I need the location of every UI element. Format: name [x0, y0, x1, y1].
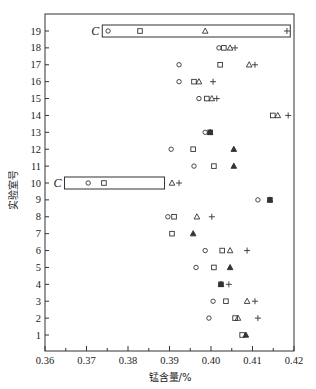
triangle-marker-icon — [202, 28, 208, 33]
y-tick-label: 7 — [36, 228, 41, 239]
circle-marker-icon — [197, 96, 201, 100]
circle-marker-icon — [203, 130, 207, 134]
triangle-marker-icon — [227, 248, 233, 253]
circle-marker-icon — [177, 79, 181, 83]
x-tick-label: 0.36 — [36, 355, 54, 366]
y-tick-label: 18 — [31, 42, 42, 53]
scatter-chart: 12345678910111213141516171819 0.360.370.… — [0, 0, 316, 389]
outlier-label: C — [91, 24, 100, 38]
x-axis: 0.360.370.380.390.400.410.42 — [36, 346, 303, 366]
square-marker-icon — [138, 29, 143, 34]
square-marker-icon — [205, 96, 210, 101]
triangle-marker-icon — [227, 45, 233, 50]
square-marker-icon — [170, 231, 175, 236]
y-tick-label: 17 — [31, 59, 42, 70]
circle-marker-icon — [207, 316, 211, 320]
circle-marker-icon — [166, 215, 170, 219]
plus-marker-icon — [244, 248, 250, 254]
y-tick-label: 1 — [36, 330, 41, 341]
y-axis-title: 实验室号 — [7, 170, 19, 210]
triangle-marker-icon — [196, 79, 202, 84]
triangle-marker-icon — [209, 96, 215, 101]
triangle-marker-icon — [169, 180, 175, 185]
x-tick-label: 0.40 — [202, 355, 220, 366]
circle-marker-icon — [169, 147, 173, 151]
square-marker-icon — [218, 62, 223, 67]
circle-marker-icon — [211, 299, 215, 303]
triangle-marker-icon — [275, 112, 281, 117]
y-tick-label: 2 — [36, 313, 41, 324]
square-marker-icon — [191, 147, 196, 152]
y-tick-label: 10 — [31, 178, 42, 189]
data-points — [86, 28, 291, 337]
triangle-marker-icon — [244, 298, 250, 303]
y-tick-label: 3 — [36, 296, 41, 307]
plus-marker-icon — [176, 180, 182, 186]
y-tick-label: 4 — [36, 279, 42, 290]
y-tick-label: 6 — [36, 245, 41, 256]
triangle-marker-icon — [190, 231, 196, 236]
y-tick-label: 9 — [36, 194, 41, 205]
triangle-marker-icon — [231, 146, 237, 151]
square-marker-icon — [172, 214, 177, 219]
circle-marker-icon — [217, 46, 221, 50]
square-marker-icon — [271, 113, 276, 118]
circle-marker-icon — [203, 248, 207, 252]
x-axis-title: 锰含量/% — [149, 371, 192, 383]
square-marker-icon — [102, 181, 107, 186]
x-tick-label: 0.39 — [160, 355, 178, 366]
y-tick-label: 11 — [31, 161, 41, 172]
square-marker-icon — [222, 46, 227, 51]
plus-marker-icon — [226, 281, 232, 287]
y-axis: 12345678910111213141516171819 — [31, 26, 50, 341]
triangle-marker-icon — [227, 264, 233, 269]
y-tick-label: 13 — [31, 127, 42, 138]
y-tick-label: 8 — [36, 211, 41, 222]
square-marker-icon — [224, 299, 229, 304]
circle-marker-icon — [194, 265, 198, 269]
x-tick-label: 0.38 — [119, 355, 137, 366]
plus-marker-icon — [255, 315, 261, 321]
plus-marker-icon — [285, 112, 291, 118]
circle-marker-icon — [192, 164, 196, 168]
circle-marker-icon — [106, 29, 110, 33]
outlier-annotations: CC — [53, 24, 290, 190]
plus-marker-icon — [252, 62, 258, 68]
x-tick-label: 0.42 — [285, 355, 303, 366]
square-marker-icon — [212, 164, 217, 169]
outlier-label: C — [53, 176, 62, 190]
plus-marker-icon — [209, 214, 215, 220]
y-tick-label: 14 — [31, 110, 42, 121]
square-marker-icon — [212, 265, 217, 270]
triangle-marker-icon — [194, 214, 200, 219]
plus-marker-icon — [284, 28, 290, 34]
circle-marker-icon — [256, 198, 260, 202]
square-marker-icon — [192, 79, 197, 84]
y-tick-label: 12 — [31, 144, 42, 155]
outlier-box — [102, 25, 290, 37]
y-tick-label: 19 — [31, 26, 42, 37]
square-marker-icon — [220, 248, 225, 253]
triangle-marker-icon — [246, 62, 252, 67]
x-tick-label: 0.37 — [77, 355, 95, 366]
plus-marker-icon — [252, 298, 258, 304]
y-tick-label: 16 — [31, 76, 42, 87]
y-tick-label: 15 — [31, 93, 42, 104]
x-tick-label: 0.41 — [243, 355, 261, 366]
triangle-marker-icon — [231, 163, 237, 168]
outlier-box — [65, 177, 165, 189]
plus-marker-icon — [210, 79, 216, 85]
y-tick-label: 5 — [36, 262, 41, 273]
circle-marker-icon — [177, 63, 181, 67]
circle-marker-icon — [86, 181, 90, 185]
